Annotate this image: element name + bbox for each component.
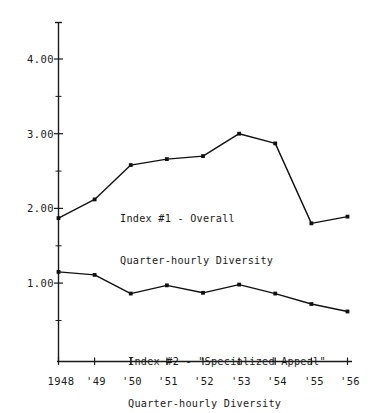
series-2-point-'54 xyxy=(273,292,277,296)
series2-annotation-line2: Quarter-hourly Diversity xyxy=(128,397,326,411)
series-1-point-'55 xyxy=(309,221,313,225)
series-2-point-'55 xyxy=(309,302,313,306)
y-tick-label-2: 2.00 xyxy=(14,202,54,214)
series1-annotation: Index #1 - Overall Quarter-hourly Divers… xyxy=(120,184,273,296)
series2-annotation-line1: Index #2 - "Specialized Appeal" xyxy=(128,355,326,369)
series-1-point-'56 xyxy=(346,215,350,219)
y-tick-label-1: 1.00 xyxy=(14,277,54,289)
series-1-point-'52 xyxy=(201,154,205,158)
series1-annotation-line2: Quarter-hourly Diversity xyxy=(120,254,273,268)
series2-annotation: Index #2 - "Specialized Appeal" Quarter-… xyxy=(128,327,326,413)
x-tick-label-1948: 1948 xyxy=(48,375,75,387)
series-1-point-'51 xyxy=(165,157,169,161)
series-1-point-'54 xyxy=(273,142,277,146)
series-2-point-'56 xyxy=(346,310,350,314)
series-1-point-'53 xyxy=(237,132,241,136)
x-tick-label-49: '49 xyxy=(86,375,106,387)
series1-annotation-line1: Index #1 - Overall xyxy=(120,212,273,226)
y-tick-label-3: 3.00 xyxy=(14,128,54,140)
x-tick-label-56: '56 xyxy=(340,375,360,387)
series-1-point-'50 xyxy=(129,163,133,167)
series-1-point-1948 xyxy=(57,216,61,220)
series-1-point-'49 xyxy=(93,198,97,202)
y-tick-label-4: 4.00 xyxy=(14,53,54,65)
series-2-point-'49 xyxy=(93,273,97,277)
series-2-point-1948 xyxy=(57,270,61,274)
